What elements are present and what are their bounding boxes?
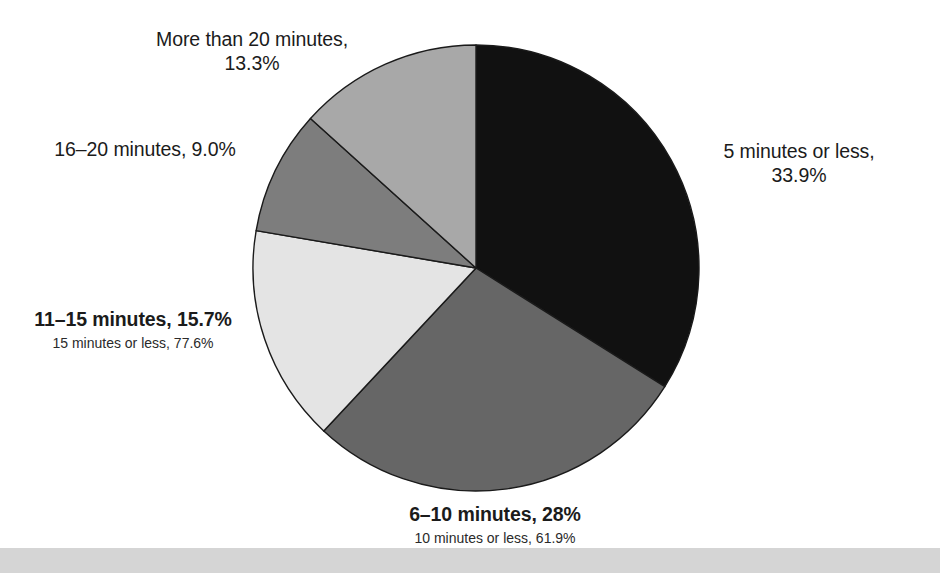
slice-label-6-10-minutes: 6–10 minutes, 28% 10 minutes or less, 61… [330, 503, 660, 547]
slice-label-more-than-20-minutes: More than 20 minutes, 13.3% [122, 28, 382, 76]
chart-area: More than 20 minutes, 13.3% 16–20 minute… [0, 0, 940, 548]
slice-label-11-15-minutes: 11–15 minutes, 15.7% 15 minutes or less,… [8, 308, 258, 352]
slice-label-16-20-minutes: 16–20 minutes, 9.0% [20, 138, 270, 162]
footer-band [0, 548, 940, 573]
slice-label-more-than-20-minutes-line2: 13.3% [122, 52, 382, 76]
slice-label-5-minutes-or-less-line1: 5 minutes or less, [684, 140, 914, 164]
slice-label-11-15-minutes-line1: 11–15 minutes, 15.7% [8, 308, 258, 332]
pie-chart-graphic [0, 0, 940, 548]
slice-label-5-minutes-or-less-line2: 33.9% [684, 164, 914, 188]
cumulative-label-15-minutes-or-less: 15 minutes or less, 77.6% [8, 335, 258, 352]
pie-chart-screenshot: More than 20 minutes, 13.3% 16–20 minute… [0, 0, 940, 573]
slice-label-6-10-minutes-line1: 6–10 minutes, 28% [330, 503, 660, 527]
pie-slice-group [253, 45, 699, 491]
slice-label-5-minutes-or-less: 5 minutes or less, 33.9% [684, 140, 914, 188]
slice-label-more-than-20-minutes-line1: More than 20 minutes, [122, 28, 382, 52]
slice-label-16-20-minutes-line1: 16–20 minutes, 9.0% [20, 138, 270, 162]
cumulative-label-10-minutes-or-less: 10 minutes or less, 61.9% [330, 530, 660, 547]
